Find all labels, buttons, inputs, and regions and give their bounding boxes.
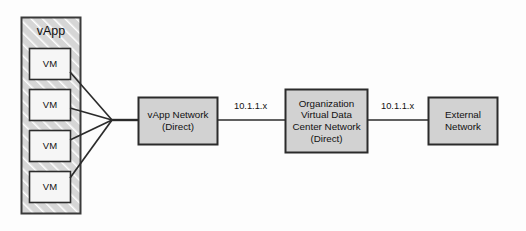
diagram-svg [0,0,526,231]
vm-box-3[interactable] [30,172,71,203]
org-vdc-network-node[interactable] [286,90,368,153]
vm-box-0[interactable] [30,49,71,80]
vm-box-1[interactable] [30,90,71,121]
external-network-node[interactable] [429,98,498,145]
vm-box-2[interactable] [30,131,71,162]
network-diagram-canvas: vApp VM VM VM VM vApp Network (Direct) O… [0,0,526,231]
vapp-network-node[interactable] [139,98,218,145]
